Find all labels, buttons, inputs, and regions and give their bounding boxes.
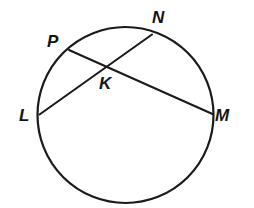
geometry-figure: P N K L M (0, 0, 254, 208)
point-label-m: M (215, 107, 229, 124)
point-label-l: L (19, 107, 29, 124)
point-label-k: K (99, 75, 111, 92)
point-label-p: P (47, 33, 58, 50)
geometry-canvas (0, 0, 254, 208)
chord-p-to-m (69, 50, 213, 114)
point-label-n: N (152, 9, 164, 26)
